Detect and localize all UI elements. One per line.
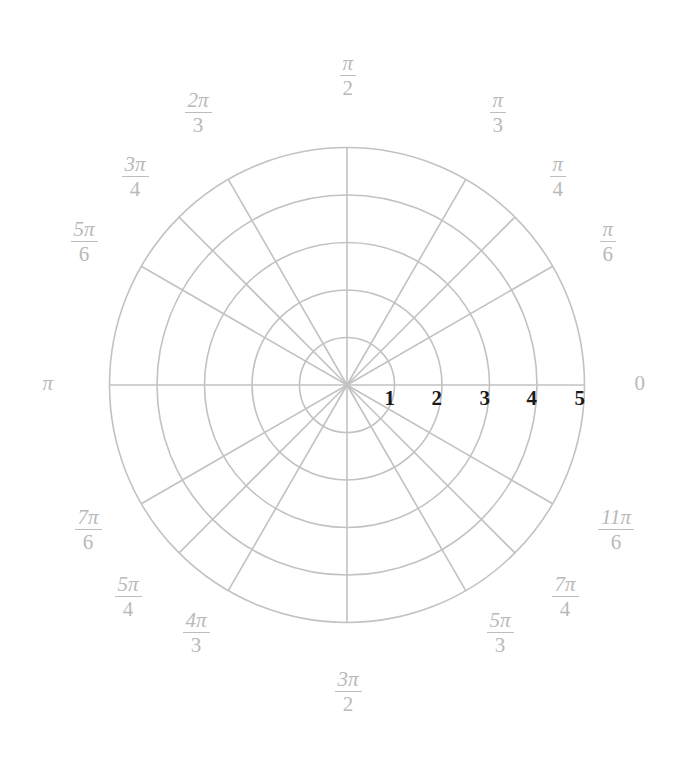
angle-label-fraction: 5π4 (115, 574, 142, 620)
angle-label-fraction: π2 (340, 53, 357, 99)
radial-tick-4: 4 (527, 388, 538, 409)
fraction-numerator: π (600, 219, 617, 242)
fraction-numerator: π (550, 154, 567, 177)
angle-label-150deg: 5π6 (71, 219, 98, 265)
grid-spoke-30deg (347, 266, 553, 385)
fraction-denominator: 6 (71, 242, 98, 265)
fraction-numerator: π (490, 90, 507, 113)
angle-label-0deg: 0 (635, 373, 646, 394)
grid-spoke-315deg (347, 385, 515, 553)
angle-label-fraction: π6 (600, 219, 617, 265)
fraction-denominator: 3 (183, 633, 210, 656)
angle-label-fraction: 5π6 (71, 219, 98, 265)
angle-label-30deg: π6 (600, 219, 617, 265)
fraction-numerator: 3π (122, 154, 149, 177)
fraction-numerator: 4π (183, 610, 210, 633)
fraction-numerator: 5π (115, 574, 142, 597)
angle-label-text: π (43, 371, 54, 395)
polar-grid-spokes (110, 148, 585, 623)
angle-label-fraction: 4π3 (183, 610, 210, 656)
fraction-denominator: 4 (550, 177, 567, 200)
grid-spoke-300deg (347, 385, 466, 591)
angle-label-180deg: π (43, 373, 54, 394)
angle-label-text: 0 (635, 371, 646, 395)
fraction-numerator: 3π (335, 669, 362, 692)
angle-label-120deg: 2π3 (185, 90, 212, 136)
fraction-denominator: 3 (487, 633, 514, 656)
angle-label-fraction: 7π6 (75, 507, 102, 553)
angle-label-fraction: 5π3 (487, 610, 514, 656)
grid-spoke-150deg (141, 266, 347, 385)
fraction-denominator: 2 (340, 76, 357, 99)
fraction-denominator: 3 (185, 113, 212, 136)
angle-label-fraction: 7π4 (552, 574, 579, 620)
fraction-denominator: 4 (122, 177, 149, 200)
fraction-numerator: 11π (598, 507, 634, 530)
angle-label-fraction: 3π2 (335, 669, 362, 715)
fraction-denominator: 4 (552, 597, 579, 620)
grid-spoke-210deg (141, 385, 347, 504)
fraction-denominator: 6 (75, 530, 102, 553)
grid-spoke-240deg (228, 385, 347, 591)
fraction-numerator: 5π (71, 219, 98, 242)
fraction-denominator: 3 (490, 113, 507, 136)
grid-spoke-45deg (347, 217, 515, 385)
fraction-numerator: 7π (75, 507, 102, 530)
grid-spoke-225deg (179, 385, 347, 553)
fraction-numerator: 5π (487, 610, 514, 633)
fraction-denominator: 6 (598, 530, 634, 553)
radial-tick-3: 3 (480, 388, 491, 409)
fraction-denominator: 2 (335, 692, 362, 715)
fraction-numerator: 7π (552, 574, 579, 597)
fraction-numerator: 2π (185, 90, 212, 113)
grid-spoke-135deg (179, 217, 347, 385)
angle-label-fraction: 2π3 (185, 90, 212, 136)
angle-label-240deg: 4π3 (183, 610, 210, 656)
fraction-denominator: 6 (600, 242, 617, 265)
angle-label-270deg: 3π2 (335, 669, 362, 715)
angle-label-90deg: π2 (340, 53, 357, 99)
radial-tick-2: 2 (432, 388, 443, 409)
angle-label-210deg: 7π6 (75, 507, 102, 553)
radial-tick-5: 5 (575, 388, 586, 409)
angle-label-330deg: 11π6 (598, 507, 634, 553)
grid-spoke-60deg (347, 179, 466, 385)
angle-label-60deg: π3 (490, 90, 507, 136)
grid-spoke-120deg (228, 179, 347, 385)
angle-label-fraction: π4 (550, 154, 567, 200)
angle-label-fraction: 11π6 (598, 507, 634, 553)
angle-label-225deg: 5π4 (115, 574, 142, 620)
angle-label-fraction: 3π4 (122, 154, 149, 200)
fraction-numerator: π (340, 53, 357, 76)
radial-tick-1: 1 (385, 388, 396, 409)
fraction-denominator: 4 (115, 597, 142, 620)
angle-label-315deg: 7π4 (552, 574, 579, 620)
angle-label-45deg: π4 (550, 154, 567, 200)
angle-label-135deg: 3π4 (122, 154, 149, 200)
angle-label-300deg: 5π3 (487, 610, 514, 656)
grid-spoke-330deg (347, 385, 553, 504)
angle-label-fraction: π3 (490, 90, 507, 136)
